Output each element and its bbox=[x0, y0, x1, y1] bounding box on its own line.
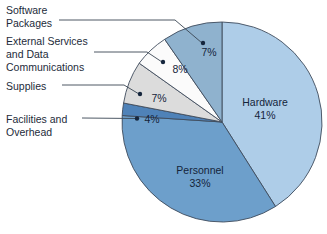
callout-label-external-services-line3: Communications bbox=[6, 61, 84, 73]
callout-label-external-services-line1: External Services bbox=[6, 35, 88, 47]
callout-label-software-packages-line2: Packages bbox=[6, 17, 52, 29]
leader-line-facilities bbox=[82, 118, 136, 119]
pie-chart-svg: Software Packages External Services and … bbox=[0, 0, 327, 234]
callout-label-facilities-line1: Facilities and bbox=[6, 113, 67, 125]
leader-dot-external-services bbox=[161, 60, 165, 64]
slice-label-hardware-value: 41% bbox=[254, 109, 275, 121]
slice-label-facilities-value: 4% bbox=[144, 113, 159, 125]
slice-label-personnel-value: 33% bbox=[189, 177, 210, 189]
callout-label-software-packages-line1: Software bbox=[6, 4, 48, 16]
slice-label-external-services-value: 8% bbox=[172, 63, 187, 75]
callout-label-facilities-line2: Overhead bbox=[6, 126, 52, 138]
slice-label-supplies-value: 7% bbox=[151, 92, 166, 104]
pie-chart-figure: Software Packages External Services and … bbox=[0, 0, 327, 234]
leader-dot-supplies bbox=[138, 92, 142, 96]
callout-label-external-services-line2: and Data bbox=[6, 48, 49, 60]
leader-dot-software-packages bbox=[201, 41, 205, 45]
callout-label-supplies: Supplies bbox=[6, 80, 46, 92]
leader-dot-facilities bbox=[135, 116, 139, 120]
slice-label-software-packages-value: 7% bbox=[201, 46, 216, 58]
slice-label-personnel-name: Personnel bbox=[176, 164, 223, 176]
slice-label-hardware-name: Hardware bbox=[242, 96, 288, 108]
